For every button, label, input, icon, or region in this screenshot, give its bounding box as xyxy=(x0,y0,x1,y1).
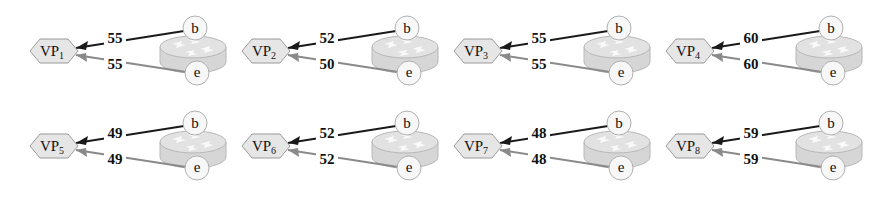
e-link-value: 49 xyxy=(108,151,123,167)
vp-panel-6: 52 52 VP6 b e xyxy=(232,95,454,194)
vp-panel-graphic: 60 60 VP4 b e xyxy=(656,0,878,99)
e-link-value: 48 xyxy=(532,151,547,167)
vp-panel-8: 59 59 VP8 b e xyxy=(656,95,878,194)
e-link-value: 50 xyxy=(320,56,335,72)
e-node: e xyxy=(821,61,845,85)
e-node: e xyxy=(821,156,845,180)
e-link-value: 60 xyxy=(744,56,759,72)
svg-text:b: b xyxy=(827,20,835,36)
b-link-value: 49 xyxy=(108,125,123,141)
e-node: e xyxy=(185,61,209,85)
vp-panel-graphic: 59 59 VP8 b e xyxy=(656,95,878,194)
b-node: b xyxy=(607,111,631,135)
vp-panel-graphic: 48 48 VP7 b e xyxy=(444,95,666,194)
svg-text:e: e xyxy=(830,64,837,80)
vantage-point-hexagon: VP3 xyxy=(454,39,502,63)
b-link-value: 52 xyxy=(320,30,335,46)
b-node: b xyxy=(395,16,419,40)
vantage-point-hexagon: VP5 xyxy=(30,134,78,158)
svg-text:b: b xyxy=(615,115,623,131)
b-link-value: 48 xyxy=(532,125,547,141)
svg-text:e: e xyxy=(618,159,625,175)
svg-text:e: e xyxy=(830,159,837,175)
vp-panel-2: 52 50 VP2 b e xyxy=(232,0,454,99)
vantage-point-hexagon: VP6 xyxy=(242,134,290,158)
vp-panel-graphic: 55 55 VP1 b e xyxy=(20,0,242,99)
b-link-value: 55 xyxy=(108,30,123,46)
vp-panel-4: 60 60 VP4 b e xyxy=(656,0,878,99)
svg-text:e: e xyxy=(406,159,413,175)
vantage-point-hexagon: VP7 xyxy=(454,134,502,158)
svg-text:b: b xyxy=(403,20,411,36)
e-node: e xyxy=(185,156,209,180)
svg-text:e: e xyxy=(194,64,201,80)
vp-panel-graphic: 49 49 VP5 b e xyxy=(20,95,242,194)
b-link-value: 60 xyxy=(744,30,759,46)
svg-text:e: e xyxy=(194,159,201,175)
b-node: b xyxy=(395,111,419,135)
svg-text:b: b xyxy=(615,20,623,36)
e-link-value: 55 xyxy=(108,56,123,72)
vp-panel-1: 55 55 VP1 b e xyxy=(20,0,242,99)
vantage-point-hexagon: VP2 xyxy=(242,39,290,63)
svg-text:b: b xyxy=(191,115,199,131)
svg-text:b: b xyxy=(403,115,411,131)
vantage-point-diagram: 55 55 VP1 b e xyxy=(0,0,888,198)
vantage-point-hexagon: VP4 xyxy=(666,39,714,63)
b-node: b xyxy=(819,111,843,135)
svg-text:b: b xyxy=(827,115,835,131)
vantage-point-hexagon: VP1 xyxy=(30,39,78,63)
svg-text:e: e xyxy=(618,64,625,80)
e-link-value: 55 xyxy=(532,56,547,72)
vp-panel-graphic: 55 55 VP3 b e xyxy=(444,0,666,99)
e-node: e xyxy=(609,156,633,180)
e-node: e xyxy=(397,156,421,180)
e-link-value: 59 xyxy=(744,151,759,167)
b-link-value: 55 xyxy=(532,30,547,46)
e-link-value: 52 xyxy=(320,151,335,167)
vp-panel-3: 55 55 VP3 b e xyxy=(444,0,666,99)
b-link-value: 59 xyxy=(744,125,759,141)
vp-panel-5: 49 49 VP5 b e xyxy=(20,95,242,194)
b-node: b xyxy=(819,16,843,40)
e-node: e xyxy=(397,61,421,85)
vp-panel-graphic: 52 50 VP2 b e xyxy=(232,0,454,99)
vantage-point-hexagon: VP8 xyxy=(666,134,714,158)
b-link-value: 52 xyxy=(320,125,335,141)
e-node: e xyxy=(609,61,633,85)
b-node: b xyxy=(183,111,207,135)
svg-text:e: e xyxy=(406,64,413,80)
svg-text:b: b xyxy=(191,20,199,36)
vp-panel-7: 48 48 VP7 b e xyxy=(444,95,666,194)
b-node: b xyxy=(607,16,631,40)
vp-panel-graphic: 52 52 VP6 b e xyxy=(232,95,454,194)
b-node: b xyxy=(183,16,207,40)
